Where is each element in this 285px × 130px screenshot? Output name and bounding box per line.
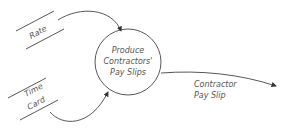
process-label-line1: Produce	[112, 46, 145, 55]
time-card-data-store: Time Card	[8, 78, 58, 120]
process-label-line2: Contractors'	[104, 57, 153, 66]
rate-data-store: Rate	[16, 11, 64, 49]
process-label-line3: Pay Slips	[110, 68, 146, 77]
flow-rate-to-process	[58, 11, 121, 31]
process-bubble: Produce Contractors' Pay Slips	[95, 29, 161, 95]
pay-slip-label-line2: Pay Slip	[194, 91, 226, 100]
rate-label: Rate	[28, 24, 49, 41]
flow-time-card-to-process	[50, 92, 108, 121]
pay-slip-label-line1: Contractor	[194, 80, 237, 89]
data-flow-diagram: Rate Time Card Produce Contractors' Pay …	[0, 0, 285, 130]
